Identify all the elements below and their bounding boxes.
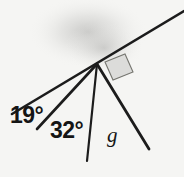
diagram-canvas xyxy=(0,0,184,177)
shadow-smudge-secondary xyxy=(64,22,144,74)
label-angle-32: 32° xyxy=(50,119,83,142)
label-angle-19: 19° xyxy=(10,104,43,127)
label-angle-g: g xyxy=(107,125,118,146)
angle-diagram-figure: 19° 32° g xyxy=(0,0,184,177)
